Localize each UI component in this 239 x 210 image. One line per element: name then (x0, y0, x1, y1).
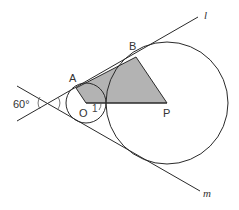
line-m-label: m (203, 187, 211, 199)
geometry-diagram: 60° A B O 1 P l m (0, 0, 239, 210)
angle-60-label: 60° (13, 98, 30, 110)
shaded-quadrilateral (76, 57, 167, 103)
angle-arc-right (58, 97, 60, 109)
line-l-label: l (204, 9, 207, 21)
point-a-label: A (69, 72, 77, 84)
point-b-label: B (129, 40, 136, 52)
angle-1-arc (99, 103, 101, 110)
line-l (17, 17, 198, 121)
point-o-label: O (79, 107, 88, 119)
angle-1-label: 1 (92, 103, 98, 114)
point-p-label: P (163, 107, 170, 119)
